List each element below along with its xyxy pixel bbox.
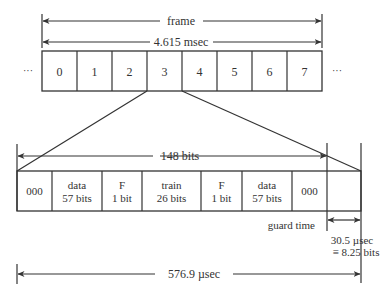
field-data-1-name: data	[68, 179, 86, 191]
slot-3: 3	[162, 65, 168, 79]
frame-slots: ··· 0 1 2 3 4 5 6 7 ···	[23, 51, 342, 91]
slot-6: 6	[267, 65, 273, 79]
field-tail-bits-start: 000	[26, 185, 43, 197]
frame-duration: 4.615 msec	[154, 35, 209, 49]
slot-0: 0	[57, 65, 63, 79]
field-data-2-bits: 57 bits	[252, 192, 282, 204]
guard-time-label: guard time	[268, 219, 315, 231]
slot-5: 5	[232, 65, 238, 79]
slot-duration-label: 576.9 µsec	[168, 267, 220, 281]
field-train-bits: 26 bits	[157, 192, 187, 204]
field-flag-2-bits: 1 bit	[212, 192, 232, 204]
field-tail-bits-end: 000	[301, 185, 318, 197]
slot-4: 4	[197, 65, 203, 79]
guard-duration: 30.5 µsec	[331, 234, 374, 246]
field-data-2-name: data	[258, 179, 276, 191]
field-flag-1-bits: 1 bit	[112, 192, 132, 204]
slot-duration-dimension: 576.9 µsec	[17, 264, 360, 284]
slot-7: 7	[302, 65, 308, 79]
burst-length: 148 bits	[161, 149, 200, 163]
field-flag-2-name: F	[218, 179, 224, 191]
slot-1: 1	[92, 65, 98, 79]
frame-label: frame	[167, 14, 195, 28]
guard-equivalent-bits: ≡ 8.25 bits	[333, 246, 380, 258]
ellipsis-right: ···	[332, 65, 342, 76]
guard-time: guard time 30.5 µsec ≡ 8.25 bits	[268, 219, 380, 258]
slot-2: 2	[127, 65, 133, 79]
field-flag-1-name: F	[119, 179, 125, 191]
burst-dimension: 148 bits	[17, 143, 361, 283]
ellipsis-left: ···	[23, 65, 33, 76]
field-train-name: train	[161, 179, 182, 191]
frame-dimension: frame 4.615 msec	[42, 14, 322, 49]
gsm-tdma-frame-diagram: frame 4.615 msec ··· 0 1 2 3 4 5 6 7 ···	[0, 0, 388, 295]
burst-fields: 000 data 57 bits F 1 bit train 26 bits F…	[17, 171, 361, 211]
field-data-1-bits: 57 bits	[62, 192, 92, 204]
